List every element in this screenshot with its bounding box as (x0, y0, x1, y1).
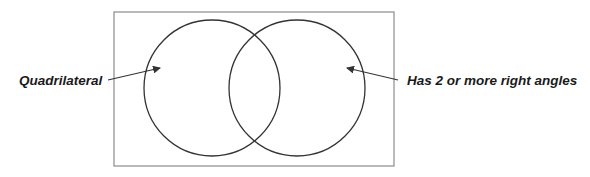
arrow-quadrilateral (108, 68, 160, 80)
label-has-2-or-more-right-angles: Has 2 or more right angles (407, 73, 577, 89)
arrow-right-angles (347, 68, 398, 80)
label-quadrilateral: Quadrilateral (19, 73, 102, 89)
set-circle-quadrilateral (144, 20, 280, 156)
set-circle-right-angles (229, 20, 365, 156)
